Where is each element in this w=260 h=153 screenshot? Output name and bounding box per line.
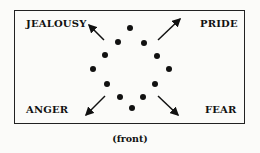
dot-icon — [154, 53, 160, 59]
dot-icon — [90, 66, 96, 72]
dot-icon — [117, 94, 123, 100]
arrow-up-right-icon — [158, 19, 180, 40]
dot-icon — [152, 81, 158, 87]
dot-icon — [104, 81, 110, 87]
dot-icon — [102, 52, 108, 58]
dot-icon — [140, 94, 146, 100]
arrow-down-left-icon — [86, 96, 105, 115]
dot-icon — [127, 25, 133, 31]
arrow-up-left-icon — [89, 25, 104, 40]
dot-icon — [115, 39, 121, 45]
dot-icon — [129, 105, 135, 111]
arrow-down-right-icon — [158, 96, 178, 115]
dot-icon — [141, 40, 147, 46]
arrows-layer — [0, 0, 260, 153]
dot-icon — [166, 66, 172, 72]
caption: (front) — [0, 133, 260, 144]
